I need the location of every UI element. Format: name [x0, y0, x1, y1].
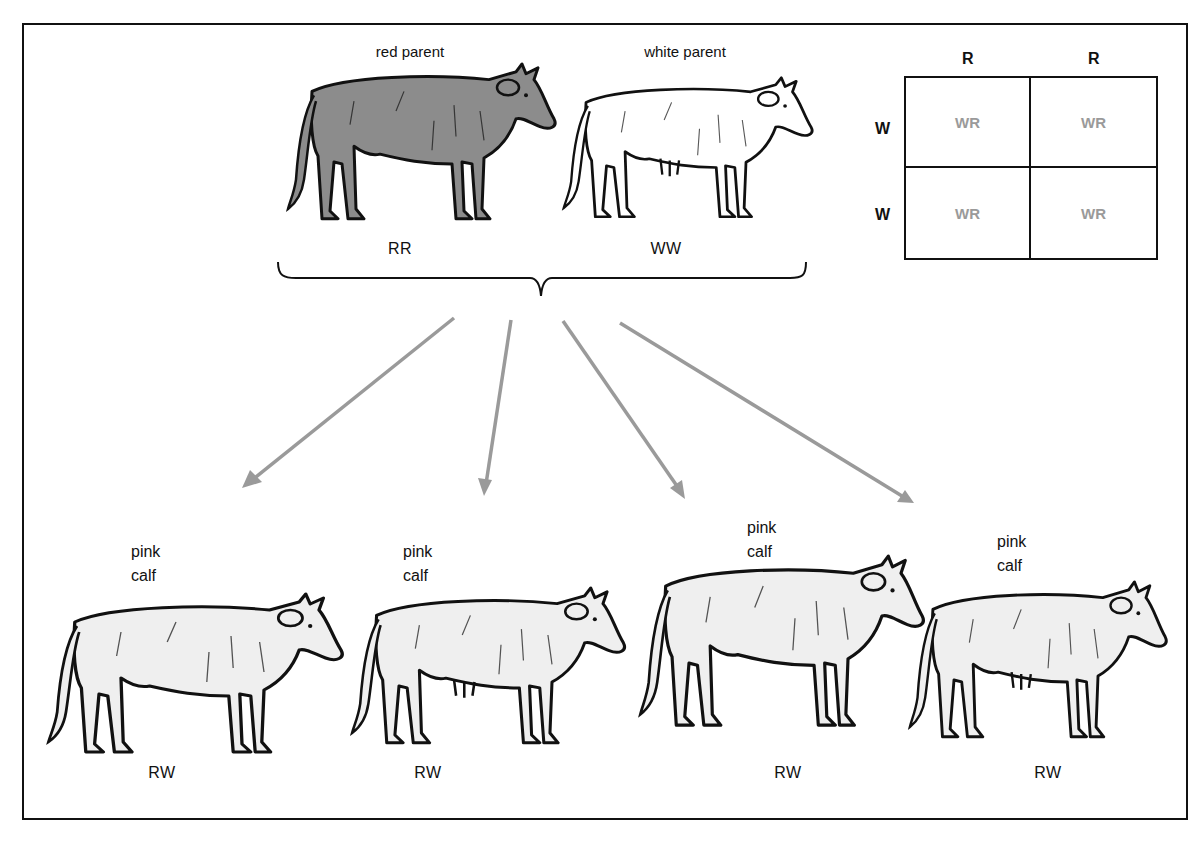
calf-1 [48, 594, 342, 752]
parents-bracket [278, 262, 806, 296]
red-parent-cow [288, 64, 555, 219]
calf-label-line1: pink [131, 540, 160, 564]
calf-3 [640, 556, 923, 725]
white-parent-genotype: WW [636, 240, 696, 258]
calf-4-genotype: RW [1023, 764, 1073, 782]
punnett-cell: WR [906, 168, 1031, 258]
punnett-row-header-2: W [875, 206, 890, 224]
calf-3-label: pink calf [747, 516, 776, 564]
calf-3-genotype: RW [763, 764, 813, 782]
punnett-cell: WR [1031, 168, 1156, 258]
calf-label-line1: pink [997, 530, 1026, 554]
calf-4 [910, 582, 1166, 737]
punnett-col-header-2: R [1088, 50, 1100, 68]
red-parent-genotype: RR [370, 240, 430, 258]
punnett-square: WR WR WR WR [904, 76, 1158, 260]
calf-4-label: pink calf [997, 530, 1026, 578]
calf-label-line2: calf [131, 564, 160, 588]
calf-2 [352, 588, 624, 743]
calf-label-line2: calf [403, 564, 432, 588]
calf-2-label: pink calf [403, 540, 432, 588]
calf-1-label: pink calf [131, 540, 160, 588]
calf-label-line2: calf [997, 554, 1026, 578]
punnett-cell: WR [1031, 78, 1156, 168]
punnett-row-header-1: W [875, 120, 890, 138]
calf-1-genotype: RW [137, 764, 187, 782]
punnett-cell: WR [906, 78, 1031, 168]
calf-label-line1: pink [747, 516, 776, 540]
offspring-arrows [242, 318, 914, 503]
white-parent-cow [564, 78, 812, 217]
calf-label-line2: calf [747, 540, 776, 564]
calf-2-genotype: RW [403, 764, 453, 782]
calf-label-line1: pink [403, 540, 432, 564]
punnett-col-header-1: R [962, 50, 974, 68]
